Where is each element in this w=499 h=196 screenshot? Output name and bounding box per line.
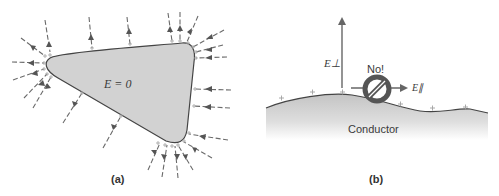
- inside-field-label: E = 0: [104, 77, 131, 92]
- e-parallel-label: E∥: [412, 82, 423, 93]
- e-perpendicular-arrow: [338, 17, 346, 88]
- panel-b-label: (b): [369, 173, 383, 185]
- forbidden-label: No!: [367, 63, 384, 75]
- figure-svg: [0, 0, 499, 196]
- e-perpendicular-label: E⊥: [324, 57, 341, 70]
- conductor-label: Conductor: [348, 123, 399, 135]
- panel-a-conductor: [46, 43, 194, 143]
- panel-a-label: (a): [111, 173, 124, 185]
- prohibited-icon: [365, 77, 389, 101]
- figure: E = 0 (a) E⊥ No! E∥ Conductor (b): [0, 0, 499, 196]
